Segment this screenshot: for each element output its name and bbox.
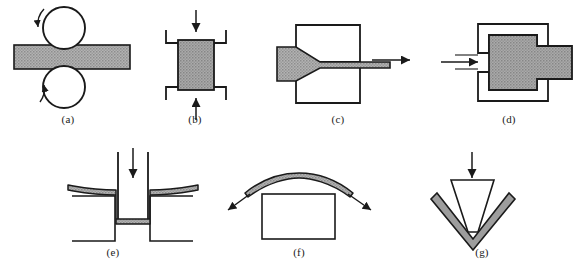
panel-e-deep-drawing — [68, 148, 198, 241]
panel-e-die-right — [150, 196, 193, 241]
caption-d: (d) — [489, 113, 529, 125]
panel-e-die-left — [72, 196, 115, 241]
caption-g: (g) — [462, 246, 502, 258]
caption-a: (a) — [48, 113, 88, 125]
panel-a-workpiece — [14, 45, 130, 69]
panel-b-workpiece-billet — [178, 40, 214, 90]
panel-f-form-block — [262, 194, 335, 239]
panel-b-forging — [166, 10, 226, 120]
panel-d-extrusion — [441, 24, 572, 101]
panel-f-stretch-forming — [228, 173, 371, 239]
panel-a-upper-roll — [43, 7, 85, 49]
panel-f-right-tension-arrow-icon — [348, 194, 371, 210]
panel-d-ram-arrow-icon — [441, 55, 478, 69]
figure-canvas — [0, 0, 579, 273]
forming-processes-figure: (a) (b) (c) (d) (e) (f) (g) — [0, 0, 579, 273]
panel-c-drawing — [277, 25, 410, 103]
caption-b: (b) — [175, 113, 215, 125]
caption-c: (c) — [318, 113, 358, 125]
panel-a-lower-roll — [43, 66, 85, 108]
caption-f: (f) — [279, 246, 319, 258]
panel-g-bending — [431, 152, 515, 250]
panel-f-left-tension-arrow-icon — [228, 194, 250, 210]
panel-d-workpiece — [489, 35, 572, 90]
panel-a-rolling — [14, 7, 130, 108]
caption-e: (e) — [93, 246, 133, 258]
